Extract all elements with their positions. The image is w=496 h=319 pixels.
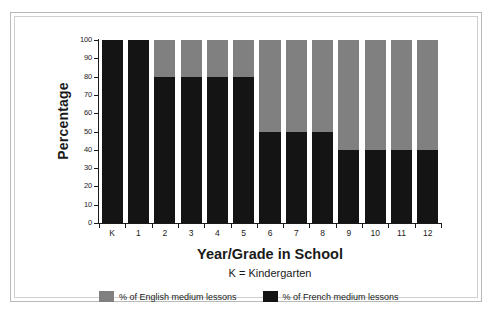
- bar-segment-french: [181, 77, 202, 223]
- bar-segment-english: [181, 40, 202, 77]
- x-axis-title: Year/Grade in School: [99, 246, 441, 262]
- bar-segment-french: [207, 77, 228, 223]
- bar-segment-french: [312, 132, 333, 224]
- bar-segment-french: [102, 40, 123, 223]
- x-tick-label: 3: [178, 228, 204, 238]
- bar-segment-english: [391, 40, 412, 150]
- y-tick-label: 80: [68, 72, 92, 81]
- legend-swatch: [99, 291, 114, 302]
- bar-column: [338, 40, 359, 223]
- bar-column: [102, 40, 123, 223]
- bar-segment-french: [154, 77, 175, 223]
- y-tick-label: 100: [68, 35, 92, 44]
- bar-column: [417, 40, 438, 223]
- y-tick-label: 0: [68, 218, 92, 227]
- x-axis-line: [98, 223, 442, 224]
- bar-segment-french: [338, 150, 359, 223]
- x-tick-label: 9: [336, 228, 362, 238]
- y-tick-label: 40: [68, 145, 92, 154]
- x-tick-label: 10: [362, 228, 388, 238]
- legend-label: % of English medium lessons: [119, 292, 237, 302]
- x-tick-label: K: [99, 228, 125, 238]
- x-axis-subtitle: K = Kindergarten: [99, 267, 441, 279]
- bar-segment-french: [417, 150, 438, 223]
- legend-label: % of French medium lessons: [283, 292, 399, 302]
- figure-frame-inner: Percentage 0102030405060708090100 K12345…: [14, 16, 478, 298]
- y-tick-label: 60: [68, 108, 92, 117]
- x-tick-mark: [441, 224, 442, 228]
- bar-segment-english: [207, 40, 228, 77]
- bar-column: [312, 40, 333, 223]
- legend-item: % of French medium lessons: [263, 291, 399, 302]
- x-tick-label: 6: [257, 228, 283, 238]
- bar-segment-english: [233, 40, 254, 77]
- bar-column: [233, 40, 254, 223]
- bar-column: [128, 40, 149, 223]
- bar-segment-french: [286, 132, 307, 224]
- bar-segment-english: [286, 40, 307, 132]
- x-tick-label: 11: [389, 228, 415, 238]
- x-tick-label: 8: [310, 228, 336, 238]
- y-tick-label: 50: [68, 127, 92, 136]
- bar-segment-english: [154, 40, 175, 77]
- bar-column: [207, 40, 228, 223]
- bar-segment-english: [417, 40, 438, 150]
- chart-figure: Percentage 0102030405060708090100 K12345…: [0, 0, 496, 319]
- y-tick-label: 70: [68, 90, 92, 99]
- bar-column: [391, 40, 412, 223]
- plot-area: [99, 40, 441, 223]
- y-tick-label: 30: [68, 163, 92, 172]
- bar-segment-french: [365, 150, 386, 223]
- bar-column: [286, 40, 307, 223]
- x-tick-label: 1: [125, 228, 151, 238]
- x-tick-label: 5: [231, 228, 257, 238]
- bar-column: [154, 40, 175, 223]
- x-tick-label: 12: [415, 228, 441, 238]
- bar-segment-english: [259, 40, 280, 132]
- bar-segment-french: [233, 77, 254, 223]
- bar-segment-french: [391, 150, 412, 223]
- bar-segment-french: [128, 40, 149, 223]
- x-tick-label: 4: [204, 228, 230, 238]
- y-tick-label: 90: [68, 53, 92, 62]
- bar-segment-english: [338, 40, 359, 150]
- x-tick-label: 7: [283, 228, 309, 238]
- x-tick-label: 2: [152, 228, 178, 238]
- bar-segment-english: [365, 40, 386, 150]
- bar-column: [181, 40, 202, 223]
- bar-column: [259, 40, 280, 223]
- bar-column: [365, 40, 386, 223]
- legend-item: % of English medium lessons: [99, 291, 237, 302]
- bar-segment-french: [259, 132, 280, 224]
- legend-swatch: [263, 291, 278, 302]
- bar-segment-english: [312, 40, 333, 132]
- chart-legend: % of English medium lessons% of French m…: [99, 291, 459, 302]
- y-tick-label: 10: [68, 200, 92, 209]
- y-tick-label: 20: [68, 181, 92, 190]
